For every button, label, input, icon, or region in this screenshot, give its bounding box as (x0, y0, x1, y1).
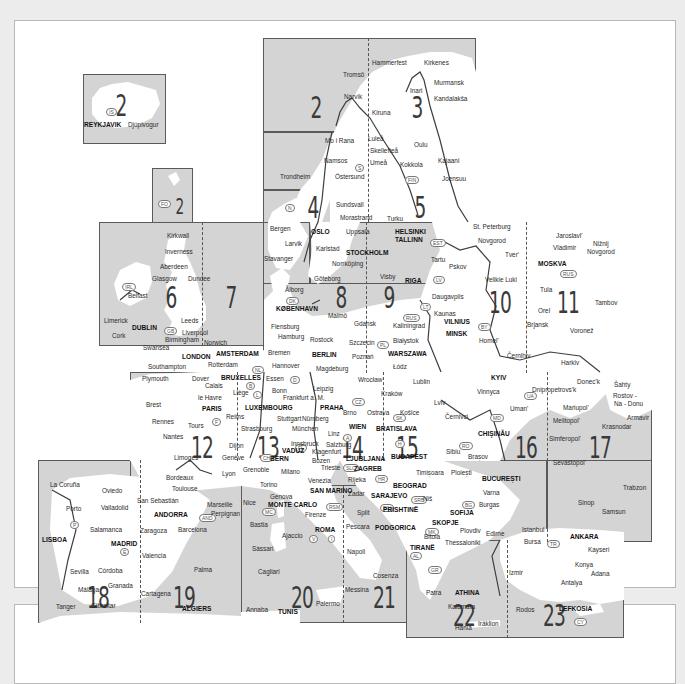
divider-14-15 (383, 372, 384, 461)
country-badge: IRL (122, 283, 136, 291)
city-label: Brjansk (527, 322, 548, 328)
country-badge: GB (164, 327, 177, 335)
city-label: Southampton (148, 364, 186, 370)
city-label: Visby (380, 274, 396, 280)
capital-label: MOSKVA (538, 261, 566, 268)
city-label: Tours (188, 423, 204, 429)
city-label: Kiruna (372, 110, 390, 116)
city-label: Samsun (602, 509, 625, 515)
country-badge: HR (375, 475, 388, 483)
capital-label: ATHINA (455, 590, 479, 597)
capital-label: ZAGREB (354, 466, 382, 473)
capital-label: CHIŞINĂU (478, 431, 510, 438)
city-label: Split (357, 510, 369, 516)
city-label: Bursa (524, 539, 541, 545)
country-badge: RUS (560, 270, 577, 278)
city-label: Oulu (414, 142, 428, 148)
city-label: Valladolid (101, 505, 128, 511)
city-label: Palermo (316, 601, 340, 607)
city-label: Thessaloniki (445, 540, 481, 546)
city-label: Jaroslavl' (556, 233, 582, 239)
city-label: Niš (423, 496, 432, 502)
city-label: Göteborg (314, 276, 341, 282)
divider-16-17 (547, 372, 548, 542)
city-label: Bastia (250, 522, 268, 528)
city-label: Patra (426, 590, 441, 596)
city-label: Hamburg (278, 334, 304, 340)
country-badge: RO (459, 442, 473, 450)
capital-label: WARSZAWA (388, 351, 427, 358)
city-label: Birmingham (165, 337, 199, 343)
country-badge: CY (574, 618, 587, 626)
city-label: Zadar (348, 491, 365, 497)
city-label: Vladimir (553, 245, 576, 251)
capital-label: STOCKHOLM (346, 250, 388, 257)
capital-label: SAN MARINO (310, 488, 353, 495)
city-label: Kayseri (588, 547, 609, 553)
city-label: Venezia (308, 478, 331, 484)
city-label: Pskov (449, 264, 466, 270)
city-label: Kirkenes (424, 60, 449, 66)
city-label: Uman' (510, 406, 528, 412)
city-label: Genova (270, 494, 292, 500)
city-label: Klagenfurt (312, 449, 341, 455)
capital-label: SOFIJA (450, 510, 474, 517)
city-label: Kaliningrad (393, 323, 425, 329)
city-label: Gdansk (354, 321, 376, 327)
capital-label: DUBLIN (132, 325, 157, 332)
city-label: Łódz (393, 364, 407, 370)
city-label: Daugavpils (432, 294, 464, 300)
city-label: Istanbul (522, 527, 544, 533)
city-label: le Havre (198, 395, 222, 401)
city-label: Reims (226, 414, 244, 420)
capital-label: BRATISLAVA (376, 426, 417, 433)
city-label: Larvik (285, 241, 302, 247)
city-label: Norrköping (332, 261, 363, 267)
capital-label: KYIV (491, 375, 506, 382)
city-label: Dundee (188, 276, 210, 282)
city-label: Vinnyca (477, 389, 500, 395)
city-label: Mo i Rana (325, 138, 354, 144)
city-label: San Sebastián (137, 498, 179, 504)
capital-label: TUNIS (278, 609, 298, 616)
city-label: Cork (112, 333, 126, 339)
capital-label: BERLIN (312, 352, 337, 359)
city-label: Stuttgart (277, 416, 301, 422)
city-label: Voronež (570, 328, 593, 334)
city-label: Rodos (516, 607, 534, 613)
city-label: Dnipropetrovs'k (532, 387, 576, 393)
country-badge: RUS (403, 314, 420, 322)
capital-label: SARAJEVO (371, 493, 407, 500)
city-label: Palma (194, 567, 212, 573)
country-badge: EST (430, 239, 446, 247)
city-label: Kirkwall (167, 233, 189, 239)
city-label: Salamanca (90, 527, 122, 533)
city-label: Marseille (207, 502, 233, 508)
city-label: Annaba (246, 607, 268, 613)
city-label: Brno (343, 410, 357, 416)
city-label: Armavir (627, 415, 649, 421)
city-label: Tula (540, 287, 552, 293)
city-label: Porto (66, 506, 81, 512)
country-badge: FIN (405, 176, 419, 184)
city-label: Liège (233, 390, 249, 396)
country-badge: D (290, 376, 300, 384)
capital-label: ALGIERS (182, 606, 211, 613)
divider-22-23 (507, 540, 508, 638)
city-label: Toulouse (172, 486, 198, 492)
city-label: Novgorod (478, 238, 506, 244)
capital-label: VILNIUS (444, 319, 470, 326)
city-label: Tver' (505, 252, 519, 258)
city-label: Hammerfest (372, 60, 407, 66)
country-badge: DK (286, 297, 299, 305)
city-label: Calais (205, 383, 223, 389)
city-label: Bitola (424, 534, 440, 540)
city-label: Rotterdam (208, 362, 238, 368)
city-label: Torino (260, 482, 277, 488)
capital-label: OSLO (311, 229, 330, 236)
city-label: Sevastopol' (553, 460, 586, 466)
country-badge: F (212, 418, 221, 426)
city-label: St. Peterburg (473, 224, 511, 230)
capital-label: LUXEMBOURG (245, 405, 293, 412)
city-label: Trabzon (623, 485, 646, 491)
